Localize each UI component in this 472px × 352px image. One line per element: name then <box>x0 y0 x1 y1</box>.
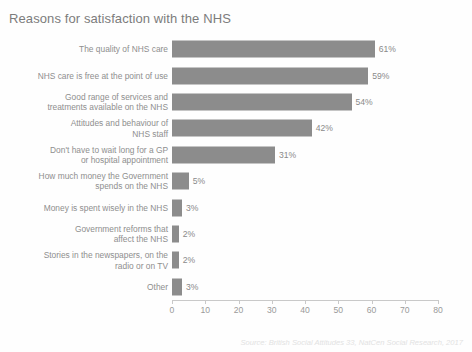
x-axis-tick-label: 20 <box>234 305 244 315</box>
bar <box>172 278 182 295</box>
category-label: Don't have to wait long for a GP or hosp… <box>8 145 168 165</box>
bar <box>172 173 189 190</box>
category-label: Money is spent wisely in the NHS <box>8 202 168 212</box>
category-label: Stories in the newspapers, on the radio … <box>8 250 168 270</box>
x-axis-tick-label: 80 <box>433 305 443 315</box>
category-label: How much money the Government spends on … <box>8 171 168 191</box>
x-axis-tick <box>272 300 273 304</box>
bar-chart: Reasons for satisfaction with the NHS Th… <box>0 0 472 352</box>
x-axis-tick <box>438 300 439 304</box>
bar-row: Other3% <box>0 274 472 300</box>
bar-value-label: 61% <box>379 44 396 54</box>
category-label: Attitudes and behaviour of NHS staff <box>8 118 168 138</box>
chart-title: Reasons for satisfaction with the NHS <box>9 11 231 26</box>
bar <box>172 93 352 110</box>
bar-value-label: 31% <box>279 150 296 160</box>
x-axis-tick-label: 10 <box>200 305 210 315</box>
x-axis-tick-label: 50 <box>333 305 343 315</box>
category-label: Government reforms that affect the NHS <box>8 224 168 244</box>
x-axis-tick-label: 40 <box>300 305 310 315</box>
bar <box>172 146 275 163</box>
x-axis-tick <box>172 300 173 304</box>
bar-row: Stories in the newspapers, on the radio … <box>0 247 472 273</box>
bar <box>172 252 179 269</box>
bar-value-label: 3% <box>186 282 198 292</box>
x-axis-tick <box>405 300 406 304</box>
x-axis-tick <box>372 300 373 304</box>
x-axis-tick-label: 0 <box>170 305 175 315</box>
category-label: NHS care is free at the point of use <box>8 70 168 80</box>
bar <box>172 41 375 58</box>
x-axis-tick <box>305 300 306 304</box>
bar <box>172 120 312 137</box>
x-axis-tick <box>239 300 240 304</box>
bar-value-label: 2% <box>183 229 195 239</box>
bar <box>172 199 182 216</box>
bar-row: Don't have to wait long for a GP or hosp… <box>0 142 472 168</box>
bar-value-label: 54% <box>356 97 373 107</box>
bar-row: How much money the Government spends on … <box>0 168 472 194</box>
x-axis-tick <box>338 300 339 304</box>
plot-area: The quality of NHS care61%NHS care is fr… <box>0 36 472 300</box>
x-axis-tick <box>205 300 206 304</box>
bar-row: The quality of NHS care61% <box>0 36 472 62</box>
bar-value-label: 3% <box>186 203 198 213</box>
category-label: Good range of services and treatments av… <box>8 92 168 112</box>
x-axis-tick-label: 70 <box>400 305 410 315</box>
bar-row: Attitudes and behaviour of NHS staff42% <box>0 115 472 141</box>
source-note: Source: British Social Attitudes 33, Nat… <box>240 338 463 347</box>
category-label: The quality of NHS care <box>8 44 168 54</box>
bar-row: Government reforms that affect the NHS2% <box>0 221 472 247</box>
bar <box>172 225 179 242</box>
x-axis-tick-label: 30 <box>267 305 277 315</box>
category-label: Other <box>8 282 168 292</box>
bar <box>172 67 368 84</box>
bar-row: Good range of services and treatments av… <box>0 89 472 115</box>
bar-row: NHS care is free at the point of use59% <box>0 62 472 88</box>
bar-value-label: 42% <box>316 123 333 133</box>
x-axis-tick-label: 60 <box>367 305 377 315</box>
bar-row: Money is spent wisely in the NHS3% <box>0 194 472 220</box>
bar-value-label: 59% <box>372 71 389 81</box>
bar-value-label: 5% <box>193 176 205 186</box>
bar-value-label: 2% <box>183 255 195 265</box>
